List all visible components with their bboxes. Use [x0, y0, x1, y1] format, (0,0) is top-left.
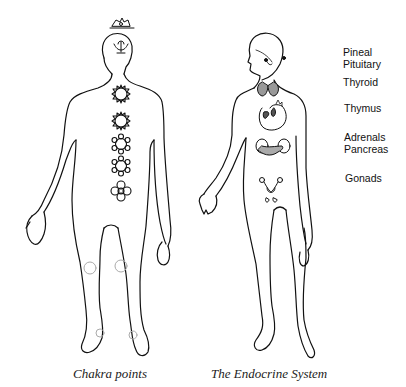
chakra-body-outline [26, 34, 171, 356]
sacral-chakra-icon [112, 156, 130, 176]
thymus-heart-icon [259, 100, 286, 130]
caption-endocrine-system: The Endocrine System [211, 366, 327, 382]
throat-chakra-icon [112, 85, 130, 103]
heart-chakra-icon [112, 112, 130, 130]
label-gonads: Gonads [345, 172, 382, 184]
adrenals-pancreas-icon [256, 139, 290, 155]
label-adrenals: Adrenals [344, 131, 385, 143]
endocrine-body-outline [199, 33, 314, 357]
label-pancreas: Pancreas [344, 143, 388, 155]
gonads-icon [260, 178, 283, 203]
third-eye-icon [114, 41, 128, 53]
solar-plexus-chakra-icon [112, 134, 130, 154]
root-chakra-icon [111, 181, 131, 201]
pineal-pituitary-icon [265, 57, 286, 65]
left-knee-point [84, 262, 96, 274]
minor-chakra-points [84, 260, 137, 339]
label-pineal: Pineal [343, 46, 372, 58]
label-thyroid: Thyroid [343, 76, 378, 88]
crown-lotus-icon [110, 18, 134, 28]
label-pituitary: Pituitary [343, 58, 381, 70]
label-thymus: Thymus [344, 102, 381, 114]
thyroid-icon [258, 82, 279, 96]
caption-chakra-points: Chakra points [73, 366, 147, 382]
